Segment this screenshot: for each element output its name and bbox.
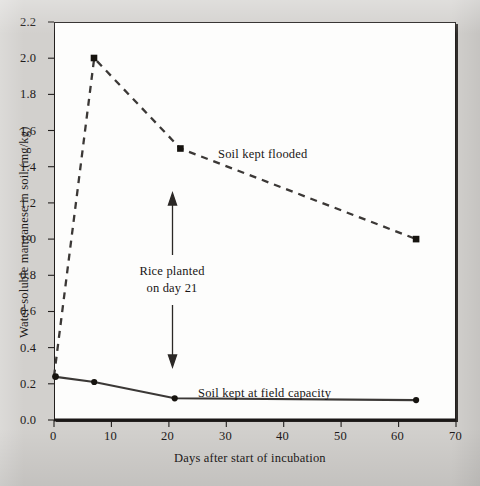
plot-area-frame — [54, 22, 456, 420]
x-tick-label-70: 70 — [449, 429, 462, 444]
y-tick-label-0-2: 0.2 — [20, 377, 36, 392]
x-tick-label-30: 30 — [219, 429, 232, 444]
figure-container: 2.2 2.0 1.8 1.6 1.4 1.2 1.0 0.8 0.6 0.4 … — [0, 0, 480, 486]
series-label-flooded: Soil kept flooded — [218, 147, 308, 162]
x-tick-label-40: 40 — [276, 429, 289, 444]
x-tick-label-10: 10 — [104, 429, 117, 444]
y-tick-label-1-8: 1.8 — [20, 87, 36, 102]
annotation-rice-planted-line1: Rice planted — [112, 264, 232, 279]
x-axis-title: Days after start of incubation — [174, 451, 326, 466]
annotation-rice-planted-line2: on day 21 — [112, 281, 232, 296]
x-tick-label-20: 20 — [161, 429, 174, 444]
x-tick-label-60: 60 — [391, 429, 404, 444]
y-tick-label-0-4: 0.4 — [20, 341, 36, 356]
x-tick-label-0: 0 — [50, 429, 56, 444]
y-axis-title: Water-soluble manganese in soil (mg/kg) — [17, 127, 32, 338]
x-tick-label-50: 50 — [334, 429, 347, 444]
series-label-field-capacity: Soil kept at field capacity — [198, 386, 331, 401]
x-axis-ticks — [54, 420, 456, 427]
y-tick-label-0-0: 0.0 — [20, 413, 36, 428]
y-tick-label-2-2: 2.2 — [20, 15, 36, 30]
y-tick-label-2-0: 2.0 — [20, 51, 36, 66]
